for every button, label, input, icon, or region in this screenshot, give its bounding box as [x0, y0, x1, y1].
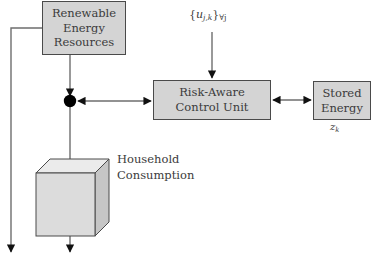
node-storage-line-2: Energy: [321, 101, 363, 116]
node-renewable-line-2: Energy: [63, 21, 105, 36]
household-consumption-label: Household Consumption: [117, 152, 194, 183]
cube-right-face: [95, 159, 109, 236]
household-label-line-1: Household: [117, 152, 194, 168]
brace-open-symbol: {: [189, 8, 196, 21]
node-renewable-energy-resources[interactable]: Renewable Energy Resources: [42, 1, 126, 55]
household-label-line-2: Consumption: [117, 168, 194, 184]
node-renewable-line-3: Resources: [54, 35, 114, 50]
state-variable-subscript: k: [335, 126, 339, 134]
forall-quantifier-symbol: ∀j: [219, 13, 226, 22]
node-control-line-2: Control Unit: [176, 100, 249, 115]
node-risk-aware-control-unit[interactable]: Risk-Aware Control Unit: [153, 80, 271, 120]
diagram-canvas: Renewable Energy Resources Risk-Aware Co…: [0, 0, 375, 271]
node-storage-line-1: Stored: [322, 86, 361, 101]
node-control-line-1: Risk-Aware: [179, 85, 245, 100]
control-inputs-annotation: {uj,k}∀j: [189, 8, 227, 22]
node-renewable-line-1: Renewable: [52, 6, 116, 21]
stored-energy-state-label: zk: [330, 121, 339, 134]
cube-front-face: [36, 173, 95, 236]
input-variable-subscript: j,k: [203, 13, 212, 22]
node-stored-energy[interactable]: Stored Energy: [313, 81, 371, 120]
